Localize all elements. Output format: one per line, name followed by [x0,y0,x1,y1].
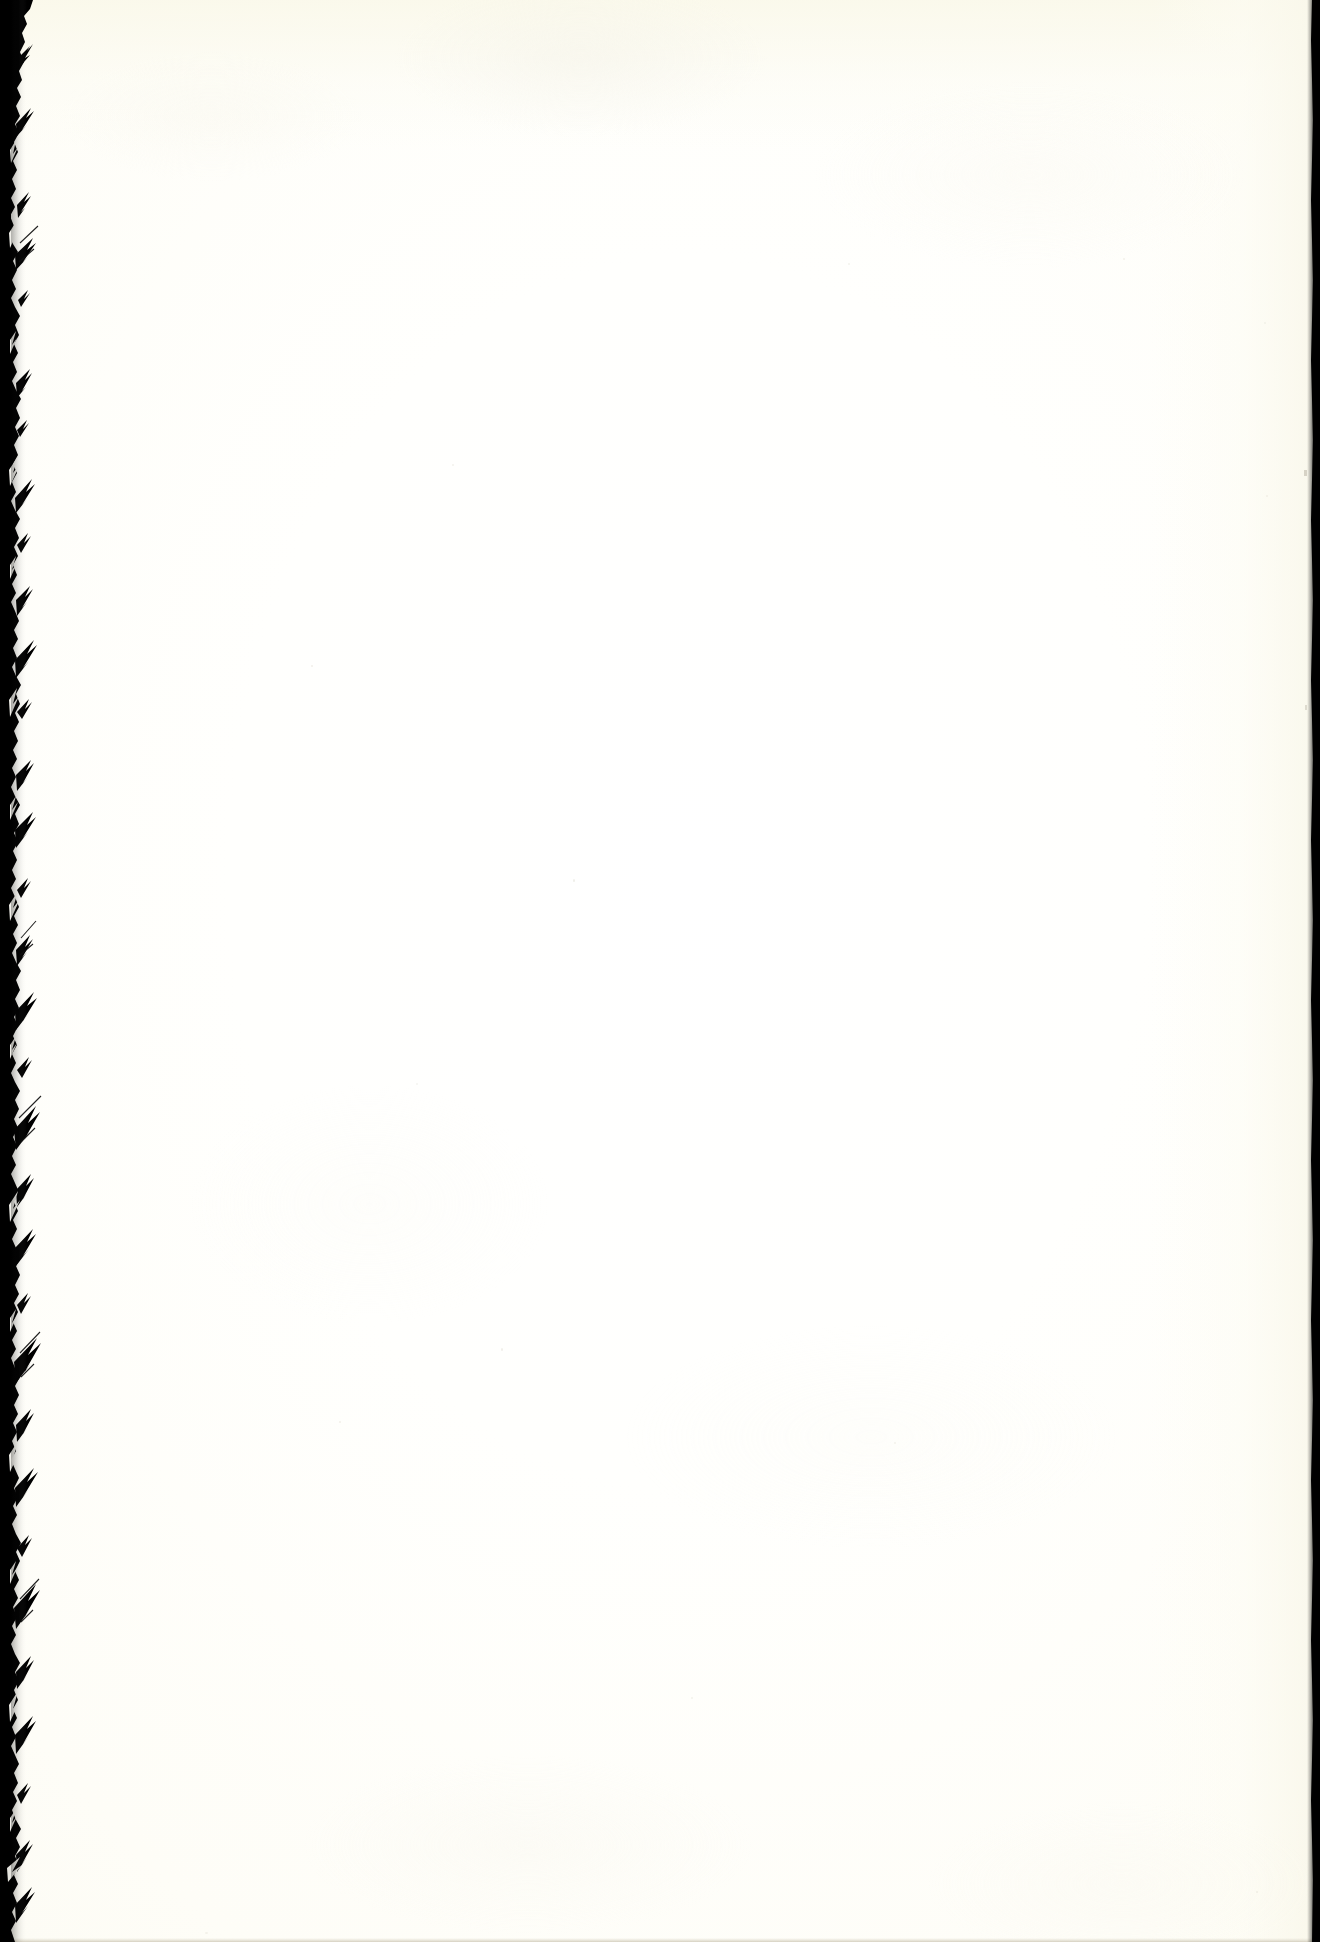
paper-mottle-texture [0,0,1320,1942]
right-edge-strip [1304,0,1320,1942]
scanned-page: Blank page from a scanned book; no print… [0,0,1320,1942]
left-gutter-band [0,0,44,1942]
bottom-scan-line [0,1938,1320,1942]
